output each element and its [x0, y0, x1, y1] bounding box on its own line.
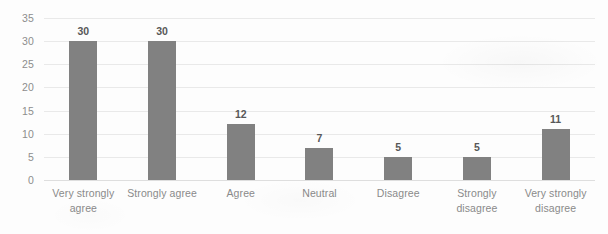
x-axis-category-label: Disagree	[359, 186, 438, 201]
bar-value-label: 7	[317, 132, 323, 144]
bar-value-label: 11	[550, 113, 561, 125]
bar[interactable]	[384, 157, 412, 180]
y-axis-tick-label: 5	[28, 151, 34, 163]
plot-area: 30301275511	[44, 18, 595, 180]
x-axis: Very strongly agreeStrongly agreeAgreeNe…	[44, 186, 595, 232]
bar-group: 11	[516, 18, 595, 180]
y-axis-tick-label: 35	[22, 12, 34, 24]
bar[interactable]	[227, 124, 255, 180]
bar-group: 5	[438, 18, 517, 180]
bar-group: 12	[201, 18, 280, 180]
bar[interactable]	[542, 129, 570, 180]
y-axis-tick-label: 25	[22, 58, 34, 70]
bar[interactable]	[148, 41, 176, 180]
bar-group: 30	[44, 18, 123, 180]
y-axis-tick-label: 30	[22, 35, 34, 47]
x-axis-category-label: Strongly agree	[123, 186, 202, 201]
bar-group: 7	[280, 18, 359, 180]
bar-value-label: 12	[235, 108, 247, 120]
bar-chart-figure: 05101520253035 30301275511 Very strongly…	[0, 0, 608, 234]
x-axis-category-label: Strongly disagree	[438, 186, 517, 216]
bar[interactable]	[69, 41, 97, 180]
bar-group: 5	[359, 18, 438, 180]
bar[interactable]	[305, 148, 333, 180]
bar-value-label: 5	[474, 141, 480, 153]
bar[interactable]	[463, 157, 491, 180]
gridline-0	[44, 180, 595, 181]
x-axis-category-label: Neutral	[280, 186, 359, 201]
x-axis-category-label: Very strongly disagree	[516, 186, 595, 216]
y-axis-tick-label: 0	[28, 174, 34, 186]
bar-value-label: 30	[156, 25, 168, 37]
bar-value-label: 30	[78, 25, 90, 37]
y-axis-tick-label: 20	[22, 81, 34, 93]
y-axis-tick-label: 15	[22, 105, 34, 117]
y-axis-tick-label: 10	[22, 128, 34, 140]
bar-group: 30	[123, 18, 202, 180]
bar-value-label: 5	[395, 141, 401, 153]
x-axis-category-label: Agree	[201, 186, 280, 201]
y-axis: 05101520253035	[0, 18, 40, 180]
x-axis-category-label: Very strongly agree	[44, 186, 123, 216]
